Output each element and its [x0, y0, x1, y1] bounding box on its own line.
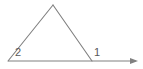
- angle-label-1: 1: [94, 47, 100, 58]
- geometry-figure: 2 1: [0, 0, 143, 69]
- angle-label-2: 2: [15, 47, 21, 58]
- geometry-diagram: [0, 0, 143, 69]
- triangle-right-side: [53, 5, 92, 61]
- ray-arrowhead-icon: [130, 58, 138, 64]
